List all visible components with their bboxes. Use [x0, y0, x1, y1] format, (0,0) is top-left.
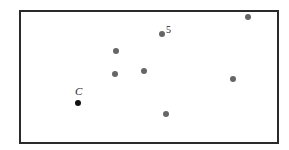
- point-mid: [141, 68, 147, 74]
- center-point-c: [75, 100, 81, 106]
- point-bottom: [163, 111, 169, 117]
- point-upper-left: [113, 48, 119, 54]
- point-top-right: [245, 14, 251, 20]
- point-mid-left: [112, 71, 118, 77]
- point-5-label: 5: [166, 25, 171, 35]
- point-5: [159, 31, 165, 37]
- point-right: [230, 76, 236, 82]
- diagram-frame: [19, 10, 279, 144]
- center-point-c-label: C: [75, 86, 82, 97]
